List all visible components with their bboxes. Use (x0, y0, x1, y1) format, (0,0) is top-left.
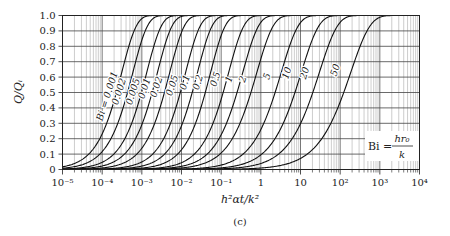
x-tick-label: 10 (294, 177, 307, 188)
x-tick-label: 1 (258, 177, 264, 188)
annotation-denominator: k (399, 149, 405, 160)
y-tick-label: 0.7 (40, 56, 56, 67)
figure-caption: (c) (233, 216, 247, 227)
x-tick-label: 10⁻³ (131, 177, 153, 188)
x-tick-label: 10³ (371, 177, 388, 188)
y-tick-label: 0.1 (40, 149, 56, 160)
bi-curve-label: 0.02 (147, 75, 164, 99)
y-tick-label: 0.6 (40, 72, 56, 83)
y-axis-label: Q/Qᵢ (12, 80, 25, 104)
x-tick-label: 10⁻² (170, 177, 192, 188)
bi-curve-label: 0.5 (207, 70, 222, 88)
biot-number-annotation: Bi = hr₀ k (365, 131, 419, 161)
y-tick-label: 0.5 (40, 87, 56, 98)
y-tick-label: 1.0 (40, 10, 56, 21)
annotation-lhs: Bi = (368, 140, 392, 153)
y-tick-label: 0.3 (40, 118, 56, 129)
annotation-numerator: hr₀ (394, 133, 409, 144)
x-tick-label: 10⁻⁴ (91, 177, 113, 188)
chart-container: Bi = 0.0010.0020.0050.010.020.050.10.20.… (0, 0, 450, 236)
y-axis-ticks: 00.10.20.30.40.50.60.70.80.91.0 (40, 10, 63, 175)
bi-curve-label: 2 (236, 75, 249, 85)
y-tick-label: 0 (49, 164, 55, 175)
bi-curve-label: 5 (260, 71, 272, 80)
bi-curve-label: 1 (222, 75, 234, 84)
y-tick-label: 0.9 (40, 25, 56, 36)
bi-curve-label: 0.2 (190, 73, 205, 91)
x-tick-label: 10⁴ (411, 177, 428, 188)
y-tick-label: 0.4 (40, 102, 56, 113)
x-axis-ticks: 10⁻⁵10⁻⁴10⁻³10⁻²10⁻¹11010²10³10⁴ (51, 170, 427, 188)
y-tick-label: 0.8 (40, 41, 56, 52)
x-tick-label: 10⁻⁵ (51, 177, 73, 188)
bi-curve-label: 10 (279, 65, 293, 80)
x-tick-label: 10² (332, 177, 349, 188)
y-tick-label: 0.2 (40, 133, 56, 144)
x-tick-label: 10⁻¹ (210, 177, 232, 188)
x-axis-label: h²αt/k² (221, 193, 259, 206)
